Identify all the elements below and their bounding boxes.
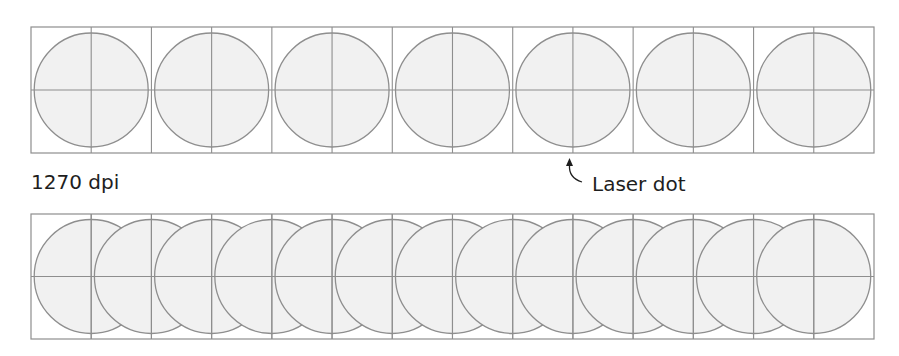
top-row-1270-dpi-grid [31, 27, 874, 153]
bottom-row-overlapping-dots [31, 214, 874, 339]
laser-dot-annotation: Laser dot [592, 174, 685, 194]
resolution-label: 1270 dpi [31, 172, 119, 192]
laser-dot-diagram [0, 0, 899, 356]
pointer-arrow-icon [566, 158, 582, 182]
